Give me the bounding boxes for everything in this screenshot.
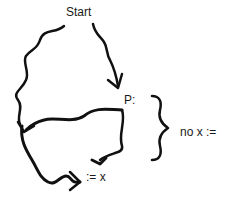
edge-start-to-p bbox=[93, 24, 118, 86]
edge-p-to-merge bbox=[26, 109, 122, 130]
brace-label: no x := bbox=[180, 126, 216, 138]
node-p: P: bbox=[124, 94, 135, 106]
diagram-canvas bbox=[0, 0, 227, 202]
arrowhead-assign-top bbox=[92, 158, 106, 164]
node-assign: := x bbox=[86, 171, 106, 183]
edge-p-to-assign bbox=[100, 110, 123, 160]
brace-no-assign bbox=[152, 96, 168, 160]
node-start: Start bbox=[66, 6, 91, 18]
edge-start-left bbox=[16, 26, 64, 124]
